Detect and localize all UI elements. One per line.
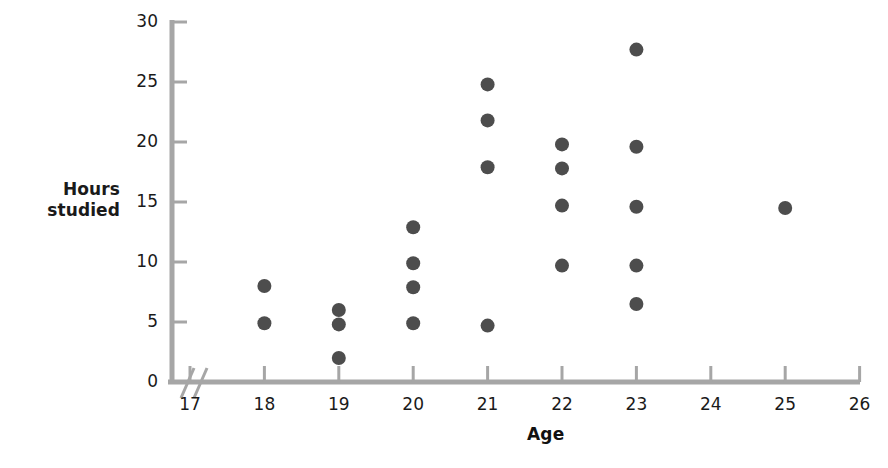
data-point xyxy=(629,200,643,214)
data-point xyxy=(481,319,495,333)
data-point xyxy=(257,279,271,293)
data-point xyxy=(629,140,643,154)
data-point xyxy=(555,137,569,151)
y-tick-label: 15 xyxy=(110,191,158,211)
x-tick-label: 26 xyxy=(835,394,885,414)
y-tick-label: 25 xyxy=(110,71,158,91)
x-tick-label: 21 xyxy=(463,394,513,414)
data-point xyxy=(481,160,495,174)
y-tick-label: 5 xyxy=(110,311,158,331)
axes-group xyxy=(168,20,860,384)
data-points-group xyxy=(257,43,792,365)
x-tick-label: 17 xyxy=(165,394,215,414)
data-point xyxy=(555,161,569,175)
x-tick-label: 25 xyxy=(760,394,810,414)
y-tick-label: 20 xyxy=(110,131,158,151)
data-point xyxy=(481,77,495,91)
data-point xyxy=(481,113,495,127)
data-point xyxy=(406,316,420,330)
x-tick-label: 19 xyxy=(314,394,364,414)
x-tick-label: 22 xyxy=(537,394,587,414)
data-point xyxy=(629,297,643,311)
data-point xyxy=(257,316,271,330)
y-tick-label: 30 xyxy=(110,11,158,31)
data-point xyxy=(555,199,569,213)
scatter-plot-chart: Hoursstudied Age 17181920212223242526 05… xyxy=(0,0,888,468)
x-tick-label: 20 xyxy=(388,394,438,414)
data-point xyxy=(406,220,420,234)
data-point xyxy=(406,280,420,294)
data-point xyxy=(332,317,346,331)
data-point xyxy=(778,201,792,215)
data-point xyxy=(406,256,420,270)
data-point xyxy=(629,43,643,57)
x-tick-label: 18 xyxy=(239,394,289,414)
y-tick-label: 10 xyxy=(110,251,158,271)
data-point xyxy=(629,259,643,273)
x-tick-label: 23 xyxy=(611,394,661,414)
x-tick-label: 24 xyxy=(686,394,736,414)
y-tick-label: 0 xyxy=(110,371,158,391)
data-point xyxy=(332,303,346,317)
data-point xyxy=(332,351,346,365)
data-point xyxy=(555,259,569,273)
ticks-group xyxy=(172,22,860,382)
